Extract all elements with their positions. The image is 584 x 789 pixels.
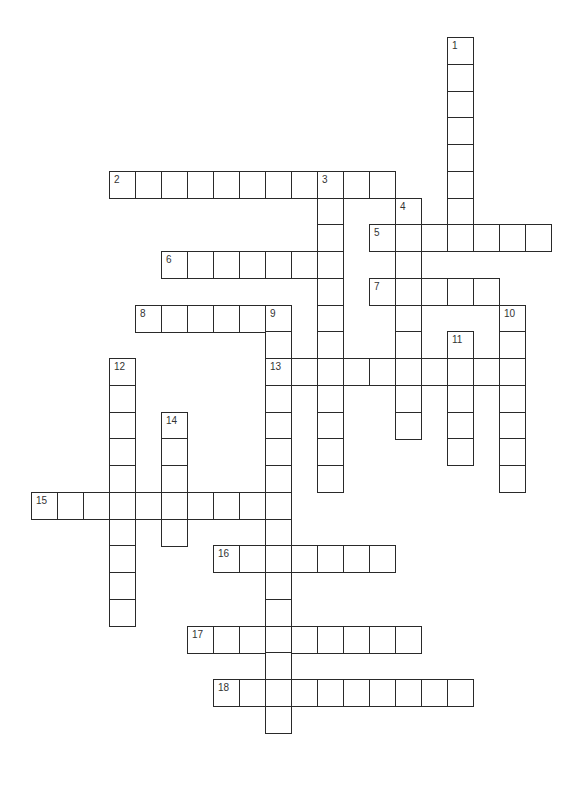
- crossword-cell[interactable]: [239, 545, 266, 573]
- crossword-cell[interactable]: 6: [161, 251, 188, 279]
- crossword-cell[interactable]: [239, 626, 266, 654]
- crossword-cell[interactable]: [421, 679, 448, 707]
- crossword-cell[interactable]: [369, 679, 396, 707]
- crossword-cell[interactable]: [187, 171, 214, 199]
- crossword-cell[interactable]: [109, 572, 136, 600]
- crossword-cell[interactable]: [343, 545, 370, 573]
- crossword-cell[interactable]: [265, 385, 292, 413]
- crossword-cell[interactable]: [161, 519, 188, 547]
- crossword-cell[interactable]: [499, 385, 526, 413]
- crossword-cell[interactable]: [395, 278, 422, 306]
- crossword-cell[interactable]: [395, 224, 422, 252]
- crossword-cell[interactable]: [109, 465, 136, 493]
- crossword-cell[interactable]: [109, 492, 136, 520]
- crossword-cell[interactable]: [239, 171, 266, 199]
- crossword-cell[interactable]: 14: [161, 412, 188, 440]
- crossword-cell[interactable]: [499, 331, 526, 359]
- crossword-cell[interactable]: [239, 492, 266, 520]
- crossword-cell[interactable]: [447, 438, 474, 466]
- crossword-cell[interactable]: [265, 465, 292, 493]
- crossword-cell[interactable]: [213, 305, 240, 333]
- crossword-cell[interactable]: [447, 91, 474, 119]
- crossword-cell[interactable]: [395, 305, 422, 333]
- crossword-cell[interactable]: [135, 171, 162, 199]
- crossword-cell[interactable]: [499, 465, 526, 493]
- crossword-cell[interactable]: [447, 679, 474, 707]
- crossword-cell[interactable]: [369, 171, 396, 199]
- crossword-cell[interactable]: [291, 251, 318, 279]
- crossword-cell[interactable]: [187, 492, 214, 520]
- crossword-cell[interactable]: [109, 412, 136, 440]
- crossword-cell[interactable]: [473, 358, 500, 386]
- crossword-cell[interactable]: [447, 117, 474, 145]
- crossword-cell[interactable]: [395, 385, 422, 413]
- crossword-cell[interactable]: [57, 492, 84, 520]
- crossword-cell[interactable]: [473, 278, 500, 306]
- crossword-cell[interactable]: [265, 519, 292, 547]
- crossword-cell[interactable]: [161, 438, 188, 466]
- crossword-cell[interactable]: [447, 278, 474, 306]
- crossword-cell[interactable]: 18: [213, 679, 240, 707]
- crossword-cell[interactable]: [265, 412, 292, 440]
- crossword-cell[interactable]: [161, 465, 188, 493]
- crossword-cell[interactable]: [83, 492, 110, 520]
- crossword-cell[interactable]: [187, 305, 214, 333]
- crossword-cell[interactable]: 17: [187, 626, 214, 654]
- crossword-cell[interactable]: [109, 599, 136, 627]
- crossword-cell[interactable]: [317, 545, 344, 573]
- crossword-cell[interactable]: [265, 438, 292, 466]
- crossword-cell[interactable]: [317, 251, 344, 279]
- crossword-cell[interactable]: [447, 64, 474, 92]
- crossword-cell[interactable]: [109, 385, 136, 413]
- crossword-cell[interactable]: 1: [447, 37, 474, 65]
- crossword-cell[interactable]: [369, 626, 396, 654]
- crossword-cell[interactable]: [317, 358, 344, 386]
- crossword-cell[interactable]: 4: [395, 198, 422, 226]
- crossword-cell[interactable]: [317, 305, 344, 333]
- crossword-cell[interactable]: [265, 331, 292, 359]
- crossword-cell[interactable]: [213, 171, 240, 199]
- crossword-cell[interactable]: [213, 626, 240, 654]
- crossword-cell[interactable]: [317, 626, 344, 654]
- crossword-cell[interactable]: [395, 679, 422, 707]
- crossword-cell[interactable]: 15: [31, 492, 58, 520]
- crossword-cell[interactable]: [265, 626, 292, 654]
- crossword-cell[interactable]: [395, 331, 422, 359]
- crossword-cell[interactable]: [447, 358, 474, 386]
- crossword-cell[interactable]: [265, 706, 292, 734]
- crossword-cell[interactable]: 9: [265, 305, 292, 333]
- crossword-cell[interactable]: [343, 626, 370, 654]
- crossword-cell[interactable]: [265, 251, 292, 279]
- crossword-cell[interactable]: [109, 438, 136, 466]
- crossword-cell[interactable]: 11: [447, 331, 474, 359]
- crossword-cell[interactable]: [395, 412, 422, 440]
- crossword-cell[interactable]: [109, 545, 136, 573]
- crossword-cell[interactable]: [265, 171, 292, 199]
- crossword-cell[interactable]: [499, 224, 526, 252]
- crossword-cell[interactable]: 3: [317, 171, 344, 199]
- crossword-cell[interactable]: [343, 358, 370, 386]
- crossword-cell[interactable]: 5: [369, 224, 396, 252]
- crossword-cell[interactable]: [317, 465, 344, 493]
- crossword-cell[interactable]: [161, 171, 188, 199]
- crossword-cell[interactable]: 13: [265, 358, 292, 386]
- crossword-cell[interactable]: 10: [499, 305, 526, 333]
- crossword-cell[interactable]: [213, 492, 240, 520]
- crossword-cell[interactable]: [317, 198, 344, 226]
- crossword-cell[interactable]: [395, 251, 422, 279]
- crossword-cell[interactable]: [447, 198, 474, 226]
- crossword-cell[interactable]: [265, 572, 292, 600]
- crossword-cell[interactable]: [291, 545, 318, 573]
- crossword-cell[interactable]: 7: [369, 278, 396, 306]
- crossword-cell[interactable]: [317, 331, 344, 359]
- crossword-cell[interactable]: [265, 652, 292, 680]
- crossword-cell[interactable]: [187, 251, 214, 279]
- crossword-cell[interactable]: [291, 679, 318, 707]
- crossword-cell[interactable]: [317, 679, 344, 707]
- crossword-cell[interactable]: [447, 171, 474, 199]
- crossword-cell[interactable]: [291, 626, 318, 654]
- crossword-cell[interactable]: [421, 224, 448, 252]
- crossword-cell[interactable]: [135, 492, 162, 520]
- crossword-cell[interactable]: [317, 385, 344, 413]
- crossword-cell[interactable]: [161, 305, 188, 333]
